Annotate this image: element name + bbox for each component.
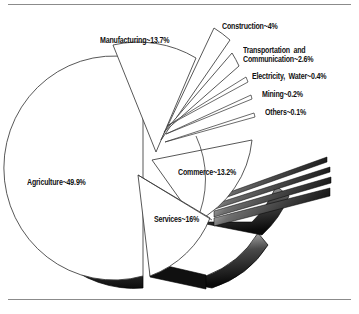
label-agriculture: Agriculture~49.9% <box>27 178 86 187</box>
label-transportation-line2: Communication~2.6% <box>243 55 313 64</box>
pie-chart-figure: Agriculture~49.9% Manufacturing~13.7% Co… <box>0 0 359 314</box>
label-services: Services~16% <box>154 215 199 224</box>
label-construction: Construction~4% <box>222 22 278 31</box>
agriculture-slice <box>4 56 143 280</box>
label-transportation-line1: Transportation and <box>243 46 305 55</box>
label-mining: Mining~0.2% <box>262 90 303 99</box>
label-electricity-water: Electricity, Water~0.4% <box>252 72 326 81</box>
label-manufacturing: Manufacturing~13.7% <box>100 36 169 45</box>
label-others: Others~0.1% <box>265 108 306 117</box>
label-commerce: Commerce~13.2% <box>178 168 236 177</box>
